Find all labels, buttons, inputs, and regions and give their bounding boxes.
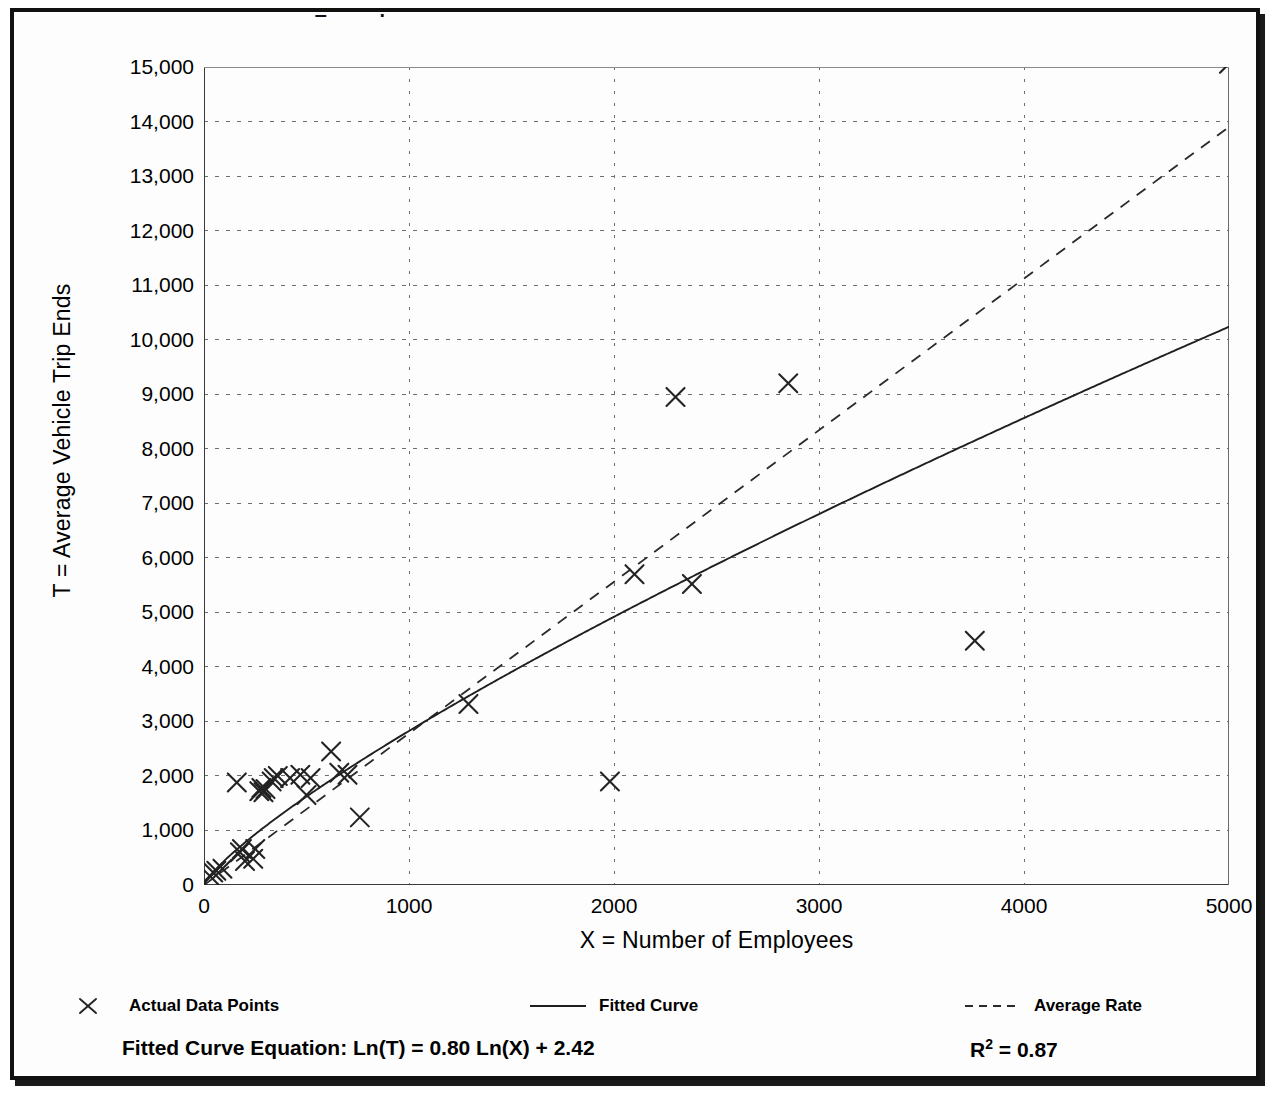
y-tick-label: 10,000 xyxy=(84,328,194,352)
data-point-marker xyxy=(626,565,644,583)
y-tick-label: 2,000 xyxy=(84,764,194,788)
legend-label: Fitted Curve xyxy=(599,996,698,1016)
data-point-marker xyxy=(459,695,477,713)
solid-line xyxy=(530,996,586,1016)
x-axis-title: X = Number of Employees xyxy=(204,927,1229,954)
y-tick-label: 3,000 xyxy=(84,709,194,733)
y-tick-label: 7,000 xyxy=(84,491,194,515)
x-tick-label: 4000 xyxy=(969,894,1079,918)
fitted-curve-equation: Fitted Curve Equation: Ln(T) = 0.80 Ln(X… xyxy=(122,1036,595,1060)
data-point-marker xyxy=(298,786,316,804)
data-point-marker xyxy=(966,632,984,650)
y-tick-label: 9,000 xyxy=(84,382,194,406)
y-tick-label: 4,000 xyxy=(84,655,194,679)
y-tick-label: 15,000 xyxy=(84,55,194,79)
y-tick-label: 8,000 xyxy=(84,437,194,461)
data-point-marker xyxy=(1220,67,1229,73)
x-tick-label: 0 xyxy=(149,894,259,918)
chart-plot-area xyxy=(204,67,1229,885)
legend-item-actual-data-points[interactable]: Actual Data Points xyxy=(60,990,279,1022)
y-axis-title: T = Average Vehicle Trip Ends xyxy=(49,161,76,721)
legend-item-fitted-curve[interactable]: Fitted Curve xyxy=(530,990,698,1022)
data-point-marker xyxy=(779,374,797,392)
legend-label: Actual Data Points xyxy=(129,996,279,1016)
y-tick-label: 12,000 xyxy=(84,219,194,243)
y-tick-label: 5,000 xyxy=(84,600,194,624)
r-squared-prefix: R xyxy=(970,1038,985,1061)
data-point-marker xyxy=(322,742,340,760)
y-tick-label: 6,000 xyxy=(84,546,194,570)
y-tick-label: 11,000 xyxy=(84,273,194,297)
cropped-title: Example xyxy=(314,12,734,17)
average-rate-line xyxy=(204,127,1229,885)
fitted-curve-line xyxy=(204,327,1229,885)
y-tick-label: 1,000 xyxy=(84,818,194,842)
dashed-line xyxy=(965,996,1021,1016)
r-squared-exponent: 2 xyxy=(985,1036,993,1052)
legend-label: Average Rate xyxy=(1034,996,1142,1016)
r-squared-value: R2 = 0.87 xyxy=(970,1036,1058,1062)
legend-item-average-rate[interactable]: Average Rate xyxy=(965,990,1142,1022)
x-tick-label: 5000 xyxy=(1174,894,1276,918)
scatter-plot-svg xyxy=(204,67,1229,885)
x-tick-label: 2000 xyxy=(559,894,669,918)
figure-footer: Fitted Curve Equation: Ln(T) = 0.80 Ln(X… xyxy=(60,1036,1240,1076)
data-point-marker xyxy=(351,808,369,826)
y-tick-label: 13,000 xyxy=(84,164,194,188)
figure-frame: Example 01,0002,0003,0004,0005,0006,0007… xyxy=(10,8,1260,1080)
x-axis-tick-labels: 010002000300040005000 xyxy=(204,894,1229,924)
x-marker xyxy=(60,996,116,1016)
y-axis-tick-labels: 01,0002,0003,0004,0005,0006,0007,0008,00… xyxy=(74,67,194,885)
x-tick-label: 3000 xyxy=(764,894,874,918)
data-point-marker xyxy=(228,773,246,791)
data-point-marker xyxy=(601,772,619,790)
x-tick-label: 1000 xyxy=(354,894,464,918)
r-squared-number: = 0.87 xyxy=(993,1038,1058,1061)
y-tick-label: 14,000 xyxy=(84,110,194,134)
chart-legend: Actual Data PointsFitted CurveAverage Ra… xyxy=(60,990,1240,1022)
data-point-marker xyxy=(667,388,685,406)
